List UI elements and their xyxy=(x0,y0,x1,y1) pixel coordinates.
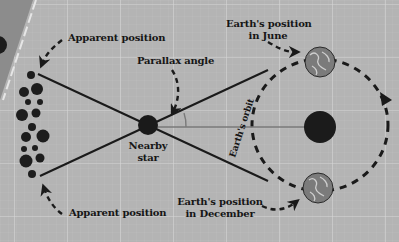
nearby-star-icon xyxy=(138,115,158,135)
label-earth-december-line2: in December xyxy=(174,208,266,220)
earth-december-icon xyxy=(303,173,333,203)
label-apparent-position-top: Apparent position xyxy=(68,32,165,44)
label-earth-december: Earth's position in December xyxy=(174,196,266,220)
label-apparent-position-bottom: Apparent position xyxy=(69,207,166,219)
label-earth-june-line1: Earth's position xyxy=(226,18,310,30)
label-nearby-star-line2: star xyxy=(128,152,168,164)
sun-icon xyxy=(304,111,336,143)
label-nearby-star-line1: Nearby xyxy=(128,140,168,152)
label-earth-december-line1: Earth's position xyxy=(174,196,266,208)
label-earth-june-line2: in June xyxy=(226,30,310,42)
label-earth-june: Earth's position in June xyxy=(226,18,310,42)
parallax-diagram: Apparent position Apparent position Para… xyxy=(0,0,399,242)
label-parallax-angle: Parallax angle xyxy=(137,55,214,67)
label-nearby-star: Nearby star xyxy=(128,140,168,164)
earth-june-icon xyxy=(305,47,335,77)
